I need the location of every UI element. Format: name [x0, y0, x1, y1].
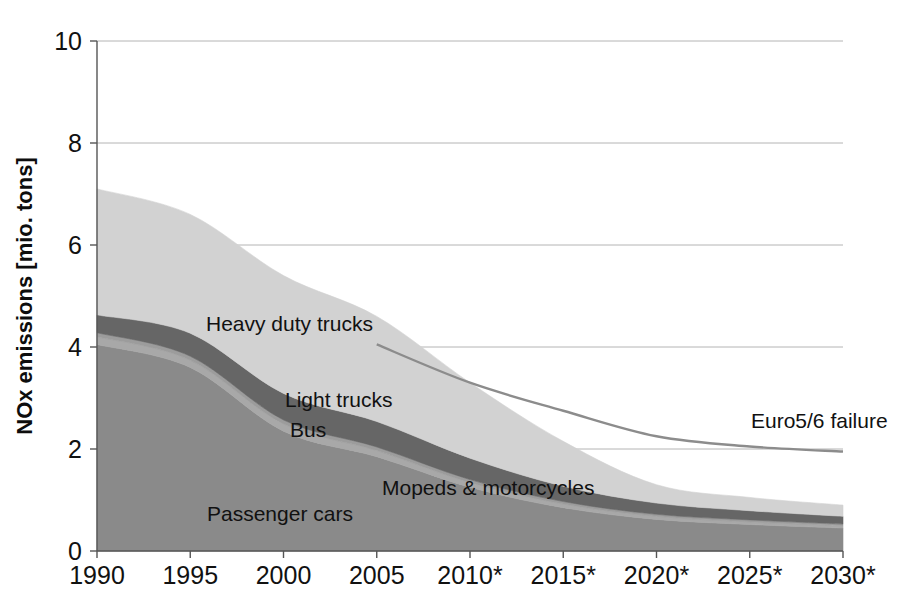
y-tick-label-6: 6 [68, 231, 82, 259]
annotation-labels: Euro5/6 failure [751, 409, 888, 432]
series-label-light-trucks: Light trucks [285, 388, 392, 411]
y-axis-label: NOx emissions [mio. tons] [12, 157, 37, 435]
y-tick-label-4: 4 [68, 333, 82, 361]
chart-root: 0246810 19901995200020052010*2015*2020*2… [0, 0, 914, 610]
series-label-mopeds-motorcycles: Mopeds & motorcycles [382, 476, 594, 499]
x-tick-label-1990: 1990 [69, 561, 125, 589]
annotation-label-euro5-6-failure: Euro5/6 failure [751, 409, 888, 432]
nox-emissions-area-chart: 0246810 19901995200020052010*2015*2020*2… [0, 0, 914, 610]
x-tick-label-2020*: 2020* [624, 561, 690, 589]
x-tick-label-2015*: 2015* [531, 561, 597, 589]
x-tick-label-2005: 2005 [349, 561, 405, 589]
x-tick-label-2000: 2000 [256, 561, 312, 589]
y-tick-label-10: 10 [54, 27, 82, 55]
y-axis-label-text: NOx emissions [mio. tons] [12, 157, 37, 435]
series-label-bus: Bus [290, 418, 326, 441]
y-tick-label-2: 2 [68, 435, 82, 463]
y-tick-label-8: 8 [68, 129, 82, 157]
x-tick-label-2025*: 2025* [717, 561, 783, 589]
series-label-heavy-duty-trucks: Heavy duty trucks [206, 312, 373, 335]
x-tick-label-1995: 1995 [162, 561, 218, 589]
x-tick-label-2010*: 2010* [437, 561, 503, 589]
series-label-passenger-cars: Passenger cars [207, 502, 353, 525]
x-tick-label-2030*: 2030* [810, 561, 876, 589]
